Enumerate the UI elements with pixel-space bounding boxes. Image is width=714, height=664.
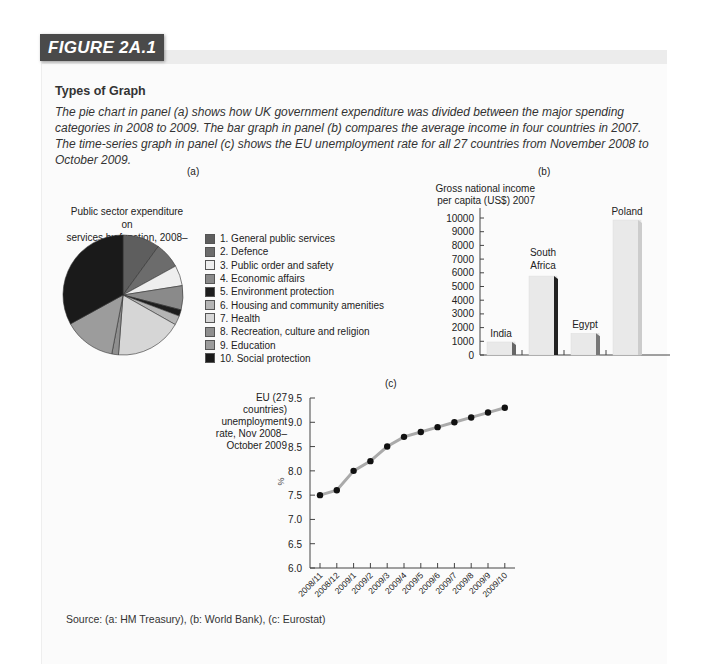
y-tick-label: 7000 — [452, 254, 475, 265]
y-tick-label: 5000 — [452, 281, 475, 292]
y-tick-label: 6.0 — [288, 563, 302, 574]
pie-chart — [60, 230, 190, 360]
y-tick-label: 8.0 — [288, 466, 302, 477]
y-tick-label: 0 — [468, 350, 474, 361]
legend-label: 4. Economic affairs — [220, 273, 305, 284]
data-point — [367, 458, 373, 464]
legend-label: 8. Recreation, culture and religion — [220, 326, 370, 337]
legend-item: 8. Recreation, culture and religion — [205, 325, 384, 338]
data-point — [485, 409, 491, 415]
legend-label: 9. Education — [220, 340, 276, 351]
data-point — [384, 443, 390, 449]
bar-label: South — [530, 247, 556, 258]
y-unit-label: % — [276, 477, 286, 485]
bar — [571, 333, 599, 355]
figure-title: Types of Graph — [55, 84, 146, 98]
figure-badge: FIGURE 2A.1 — [40, 34, 164, 61]
legend-item: 9. Education — [205, 338, 384, 351]
legend-item: 1. General public services — [205, 232, 384, 245]
y-tick-label: 8000 — [452, 240, 475, 251]
panel-b-label: (b) — [538, 166, 550, 177]
legend-label: 5. Environment protection — [220, 286, 334, 297]
bar-label: Poland — [611, 206, 642, 217]
y-tick-label: 9.0 — [288, 417, 302, 428]
legend-label: 6. Housing and community amenities — [220, 300, 384, 311]
legend-label: 1. General public services — [220, 233, 335, 244]
legend-item: 7. Health — [205, 312, 384, 325]
data-point — [317, 492, 323, 498]
data-point — [401, 434, 407, 440]
data-point — [502, 405, 508, 411]
y-tick-label: 2000 — [452, 322, 475, 333]
figure-caption: The pie chart in panel (a) shows how UK … — [55, 104, 655, 168]
bar-label: India — [490, 328, 512, 339]
y-tick-label: 4000 — [452, 295, 475, 306]
bar — [529, 276, 557, 355]
pie-legend: 1. General public services2. Defence3. P… — [205, 232, 384, 365]
y-tick-label: 7.0 — [288, 514, 302, 525]
legend-item: 4. Economic affairs — [205, 272, 384, 285]
data-point — [334, 487, 340, 493]
legend-swatch-icon — [205, 234, 215, 244]
pie-title-line1: Public sector expenditure on — [64, 205, 190, 231]
legend-label: 2. Defence — [220, 246, 268, 257]
y-tick-label: 1000 — [452, 336, 475, 347]
bar-ylabel-line1: Gross national income — [405, 183, 535, 195]
legend-swatch-icon — [205, 353, 215, 363]
y-tick-label: 8.5 — [288, 442, 302, 453]
data-point — [434, 424, 440, 430]
legend-label: 3. Public order and safety — [220, 260, 333, 271]
bar-label: Africa — [530, 260, 556, 271]
bar — [613, 220, 641, 355]
legend-item: 3. Public order and safety — [205, 259, 384, 272]
legend-label: 10. Social protection — [220, 353, 311, 364]
panel-c-label: (c) — [385, 378, 397, 389]
y-tick-label: 7.5 — [288, 490, 302, 501]
data-point — [418, 429, 424, 435]
legend-swatch-icon — [205, 313, 215, 323]
legend-item: 2. Defence — [205, 245, 384, 258]
panel-a-label: (a) — [187, 166, 199, 177]
legend-swatch-icon — [205, 260, 215, 270]
legend-swatch-icon — [205, 274, 215, 284]
data-point — [350, 468, 356, 474]
legend-swatch-icon — [205, 340, 215, 350]
y-tick-label: 9000 — [452, 226, 475, 237]
bar-chart: 0100020003000400050006000700080009000100… — [440, 195, 680, 365]
legend-item: 10. Social protection — [205, 352, 384, 365]
legend-swatch-icon — [205, 300, 215, 310]
bar-label: Egypt — [572, 319, 598, 330]
legend-swatch-icon — [205, 327, 215, 337]
bar — [487, 342, 515, 355]
legend-item: 5. Environment protection — [205, 285, 384, 298]
y-tick-label: 3000 — [452, 308, 475, 319]
data-point — [451, 419, 457, 425]
legend-label: 7. Health — [220, 313, 260, 324]
data-point — [468, 414, 474, 420]
line-chart: 6.06.57.07.58.08.59.09.5%2008/112008/122… — [270, 390, 530, 600]
y-tick-label: 6.5 — [288, 539, 302, 550]
source-note: Source: (a: HM Treasury), (b: World Bank… — [66, 613, 325, 625]
legend-swatch-icon — [205, 247, 215, 257]
legend-item: 6. Housing and community amenities — [205, 298, 384, 311]
y-tick-label: 9.5 — [288, 393, 302, 404]
y-tick-label: 6000 — [452, 267, 475, 278]
y-tick-label: 10000 — [446, 213, 474, 224]
legend-swatch-icon — [205, 287, 215, 297]
